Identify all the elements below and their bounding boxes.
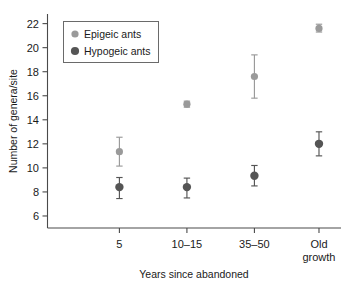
- x-tick-label: 10–15: [172, 238, 203, 250]
- y-tick-label: 8: [33, 186, 39, 198]
- legend: Epigeic ants Hypogeic ants: [64, 22, 159, 63]
- x-tick-label: Old: [310, 238, 327, 250]
- legend-marker-hypogeic: [71, 47, 79, 55]
- x-axis-ticks: 510–1535–50Oldgrowth: [116, 228, 335, 263]
- y-tick-label: 14: [27, 114, 39, 126]
- data-point: [315, 140, 323, 148]
- legend-label-epigeic: Epigeic ants: [84, 28, 141, 40]
- y-tick-label: 12: [27, 138, 39, 150]
- y-axis-title: Number of genera/site: [7, 69, 19, 173]
- data-point: [115, 183, 123, 191]
- x-axis-title: Years since abandoned: [139, 268, 249, 280]
- y-tick-label: 16: [27, 90, 39, 102]
- data-point: [250, 172, 258, 180]
- error-bar-scatter-plot: 6810121416182022 510–1535–50Oldgrowth Nu…: [0, 0, 346, 290]
- x-tick-label: 35–50: [239, 238, 270, 250]
- y-tick-label: 10: [27, 162, 39, 174]
- legend-label-hypogeic: Hypogeic ants: [84, 45, 151, 57]
- y-axis-ticks: 6810121416182022: [27, 18, 48, 222]
- y-tick-label: 6: [33, 210, 39, 222]
- series-hypogeic-ants: [115, 132, 323, 199]
- data-point: [251, 73, 258, 80]
- x-tick-label: 5: [116, 238, 122, 250]
- chart-figure: 6810121416182022 510–1535–50Oldgrowth Nu…: [0, 0, 346, 290]
- x-tick-label: growth: [302, 251, 335, 263]
- data-point: [116, 148, 123, 155]
- data-point: [183, 101, 190, 108]
- data-point: [315, 25, 322, 32]
- data-point: [183, 183, 191, 191]
- legend-marker-epigeic: [71, 30, 78, 37]
- y-tick-label: 22: [27, 18, 39, 30]
- y-tick-label: 20: [27, 42, 39, 54]
- y-tick-label: 18: [27, 66, 39, 78]
